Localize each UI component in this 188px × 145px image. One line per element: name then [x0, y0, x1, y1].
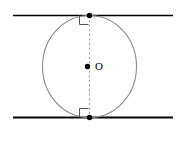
- center-point: [85, 64, 90, 69]
- center-point-label: O: [95, 60, 103, 72]
- top-tangent-point: [87, 13, 92, 18]
- bottom-tangent-point: [87, 115, 92, 120]
- geometry-figure-canvas: O: [0, 0, 188, 145]
- geometry-figure-svg: O: [0, 0, 188, 145]
